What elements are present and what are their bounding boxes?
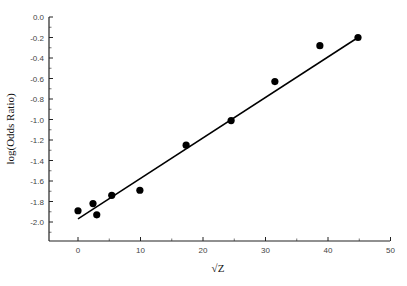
x-tick-label: 10 <box>136 246 145 255</box>
y-tick-label: -0.8 <box>30 95 44 104</box>
x-tick-label: 50 <box>386 246 395 255</box>
x-axis-title: √Z <box>212 262 225 274</box>
y-tick-label: -1.2 <box>30 136 44 145</box>
x-tick-label: 0 <box>76 246 81 255</box>
data-point <box>89 200 96 207</box>
data-point <box>93 211 100 218</box>
y-tick-label: -2.0 <box>30 218 44 227</box>
data-points <box>74 34 361 219</box>
x-tick-label: 40 <box>324 246 333 255</box>
fit-line-path <box>78 38 358 219</box>
y-tick-label: -1.4 <box>30 157 44 166</box>
y-tick-label: -1.8 <box>30 198 44 207</box>
y-tick-label: -1.0 <box>30 116 44 125</box>
scatter-chart: 0.0-0.2-0.4-0.6-0.8-1.0-1.2-1.4-1.6-1.8-… <box>0 0 407 286</box>
fit-line <box>78 38 358 219</box>
x-axis-ticks: 01020304050 <box>76 237 396 255</box>
y-tick-label: -1.6 <box>30 177 44 186</box>
data-point <box>183 142 190 149</box>
data-point <box>354 34 361 41</box>
y-tick-label: -0.2 <box>30 34 44 43</box>
data-point <box>228 117 235 124</box>
x-tick-label: 20 <box>199 246 208 255</box>
y-tick-label: -0.6 <box>30 75 44 84</box>
data-point <box>74 207 81 214</box>
data-point <box>316 42 323 49</box>
y-tick-label: 0.0 <box>33 13 45 22</box>
y-axis-title: log(Odds Ratio) <box>4 93 17 165</box>
y-tick-label: -0.4 <box>30 54 44 63</box>
x-tick-label: 30 <box>261 246 270 255</box>
data-point <box>136 187 143 194</box>
data-point <box>271 78 278 85</box>
data-point <box>108 192 115 199</box>
